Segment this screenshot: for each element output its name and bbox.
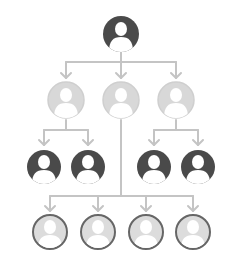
node-l2-c (158, 82, 194, 118)
node-root (103, 16, 139, 52)
node-l2-b (103, 82, 139, 118)
node-l4-a (33, 215, 67, 249)
node-l2-a (48, 82, 84, 118)
node-l4-b (81, 215, 115, 249)
node-l4-c (129, 215, 163, 249)
node-l3-a (27, 150, 61, 184)
node-l3-c (137, 150, 171, 184)
connectors (39, 52, 203, 211)
node-l4-d (176, 215, 210, 249)
node-l3-d (181, 150, 215, 184)
org-chart-diagram (0, 0, 233, 271)
org-chart-canvas (0, 0, 233, 271)
node-l3-b (71, 150, 105, 184)
